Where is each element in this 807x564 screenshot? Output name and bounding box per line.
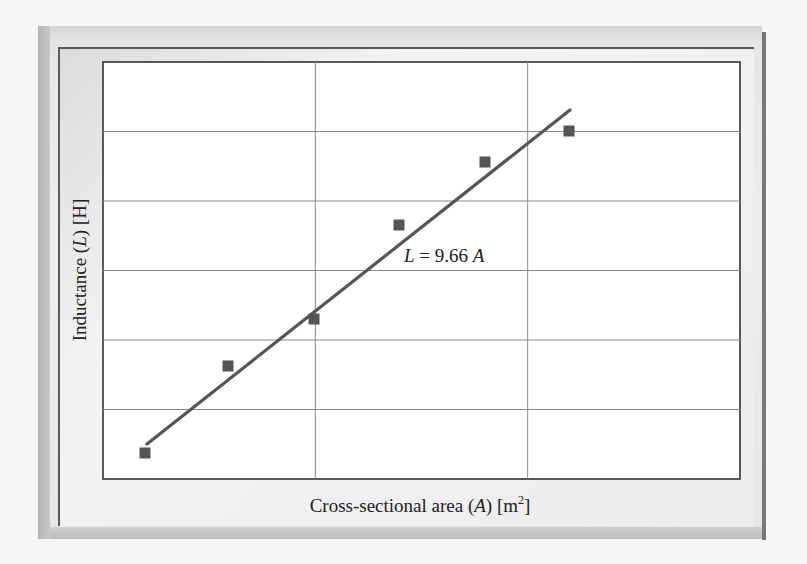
x-axis-label: Cross-sectional area (A) [m2] [310, 493, 531, 516]
equation-var-a: A [473, 245, 485, 266]
ylabel-var: L [69, 236, 90, 247]
equation-coefficient: = 9.66 [415, 245, 473, 266]
ylabel-prefix: Inductance ( [69, 247, 90, 341]
xlabel-suffix: ) [m [486, 495, 518, 516]
xlabel-var: A [474, 495, 486, 516]
ylabel-suffix: ) [H] [69, 199, 90, 236]
xlabel-prefix: Cross-sectional area ( [310, 495, 475, 516]
data-point-marker [564, 126, 575, 137]
equation-var-l: L [404, 245, 415, 266]
data-point-marker [480, 157, 491, 168]
equation-annotation: L = 9.66 A [404, 245, 484, 267]
xlabel-end: ] [524, 495, 530, 516]
data-point-marker [309, 314, 320, 325]
plot-area [0, 0, 807, 564]
y-axis-label: Inductance (L) [H] [69, 199, 91, 341]
data-point-marker [223, 361, 234, 372]
data-point-marker [140, 448, 151, 459]
data-point-marker [394, 220, 405, 231]
